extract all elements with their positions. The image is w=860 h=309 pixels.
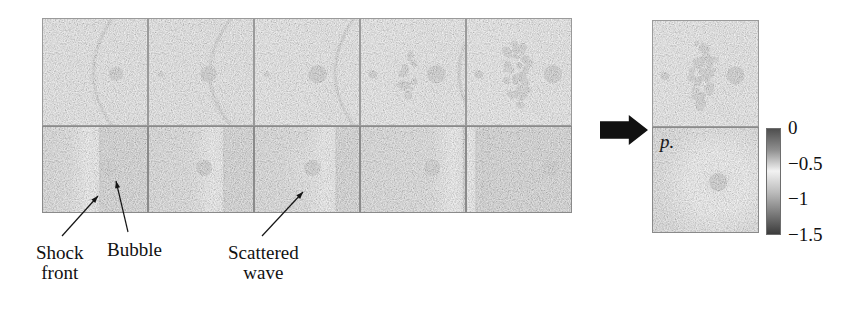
frame-sim-1 xyxy=(42,126,148,213)
pressure-colorbar xyxy=(766,128,781,235)
frame-sim-5 xyxy=(466,126,572,213)
frame-exp-1 xyxy=(42,18,148,126)
label-shock-front: Shock front xyxy=(36,243,84,283)
shock-bubble-figure: Shock front Bubble Scattered wave p. 0−0… xyxy=(0,0,860,309)
pressure-variable-label: p. xyxy=(660,131,674,153)
right-arrow-icon xyxy=(600,112,648,148)
colorbar-tick-labels: 0−0.5−1−1.5 xyxy=(788,128,858,235)
frame-exp-4 xyxy=(360,18,466,126)
computed-pressure-row xyxy=(42,126,572,213)
frame-sim-3 xyxy=(254,126,360,213)
frame-exp-final xyxy=(652,20,759,127)
frame-exp-3 xyxy=(254,18,360,126)
experimental-shadowgraph-row xyxy=(42,18,572,126)
label-bubble: Bubble xyxy=(107,240,162,260)
colorbar-tick-3: −1.5 xyxy=(788,224,822,246)
frame-exp-2 xyxy=(148,18,254,126)
colorbar-tick-0: 0 xyxy=(788,117,798,139)
frame-exp-5 xyxy=(466,18,572,126)
label-scattered-wave: Scattered wave xyxy=(228,243,299,283)
final-state-panel xyxy=(652,20,759,233)
colorbar-tick-2: −1 xyxy=(788,188,808,210)
frame-sim-4 xyxy=(360,126,466,213)
colorbar-tick-1: −0.5 xyxy=(788,153,822,175)
frame-sim-2 xyxy=(148,126,254,213)
